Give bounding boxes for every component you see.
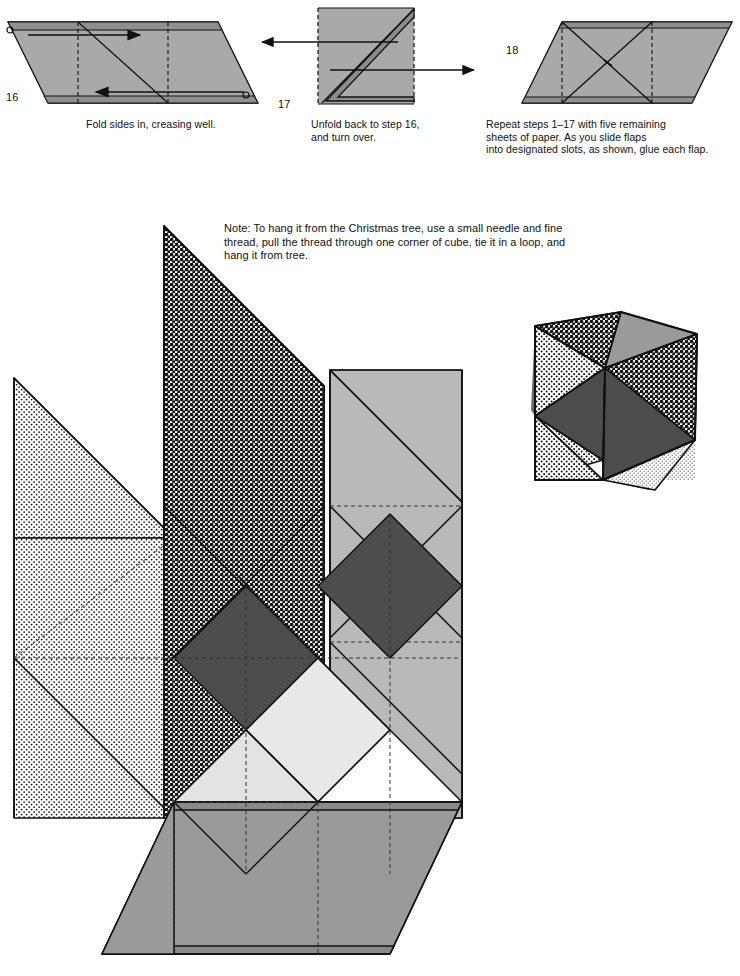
step-caption-18: Repeat steps 1–17 with five remaining sh… [486, 118, 708, 156]
steps-row-figures [0, 0, 740, 200]
step-16-figure [7, 22, 258, 103]
step-number-17: 17 [278, 98, 291, 110]
step-caption-16: Fold sides in, creasing well. [86, 118, 216, 131]
step-17-figure [262, 8, 474, 104]
module-bottom-left-flap [102, 802, 174, 954]
instruction-page: 16 17 18 Fold sides in, creasing well. U… [0, 0, 740, 976]
finished-cube [495, 290, 715, 510]
step-number-16: 16 [6, 91, 19, 103]
step-caption-17: Unfold back to step 16, and turn over. [311, 118, 420, 143]
step-number-18: 18 [506, 44, 519, 56]
step-18-figure [522, 22, 732, 103]
module-left [14, 378, 174, 818]
